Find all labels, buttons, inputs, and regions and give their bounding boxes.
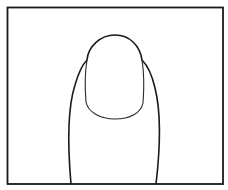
frame-border xyxy=(8,8,224,185)
fingernail-illustration xyxy=(0,0,228,190)
